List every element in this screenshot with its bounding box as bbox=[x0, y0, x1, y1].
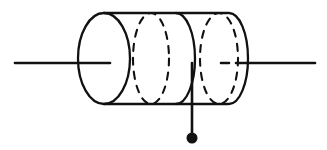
background-rect bbox=[0, 0, 327, 150]
cylindrical-coil-schematic bbox=[0, 0, 327, 150]
center-tap-terminal-dot bbox=[187, 133, 198, 144]
figure-canvas bbox=[0, 0, 327, 150]
